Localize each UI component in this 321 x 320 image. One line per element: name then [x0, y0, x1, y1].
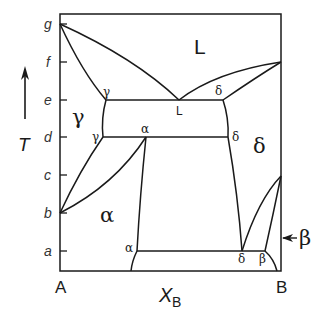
- temperature-ticks: [60, 24, 67, 251]
- gamma-boundary: [102, 100, 106, 137]
- region-label-delta: δ: [253, 134, 266, 158]
- component-label-a: A: [55, 278, 67, 297]
- beta-solvus-lower: [265, 251, 277, 271]
- point-label-gamma-d: γ: [92, 130, 99, 144]
- tick-label-b: b: [44, 205, 52, 221]
- tick-label-a: a: [44, 243, 52, 259]
- beta-pointer-arrow-icon: [282, 234, 297, 242]
- gamma-alpha-right: [60, 137, 146, 213]
- region-label-alpha: α: [100, 203, 114, 227]
- composition-axis-label: X: [158, 284, 173, 306]
- tick-label-e: e: [44, 92, 52, 108]
- tick-label-c: c: [44, 167, 51, 183]
- composition-axis-subscript: B: [172, 294, 181, 310]
- alpha-solvus: [137, 137, 146, 251]
- tick-label-d: d: [44, 129, 53, 145]
- liquidus-delta: [179, 62, 281, 100]
- liquidus-gamma-right: [60, 24, 179, 100]
- region-label-liquid: L: [194, 35, 206, 58]
- point-label-delta-a: δ: [238, 252, 245, 266]
- point-label-alpha-a: α: [125, 241, 133, 255]
- delta-boundary-upper: [223, 100, 228, 137]
- component-label-b: B: [276, 278, 287, 297]
- point-label-alpha-d: α: [141, 122, 149, 136]
- temperature-axis-label: T: [18, 134, 31, 155]
- beta-pointer-label: β: [299, 226, 311, 250]
- beta-boundary-left: [242, 176, 281, 251]
- point-label-gamma-e: γ: [103, 85, 110, 99]
- point-label-delta-d: δ: [232, 130, 239, 144]
- region-label-gamma: γ: [72, 105, 85, 129]
- tick-label-f: f: [46, 54, 52, 70]
- beta-boundary-right: [265, 176, 281, 251]
- tick-label-g: g: [44, 16, 52, 32]
- phase-diagram: g f e d c b a T L γ δ α γ L δ γ α δ α δ …: [0, 0, 321, 320]
- temperature-arrow-icon: [21, 66, 29, 119]
- delta-solvus: [228, 137, 242, 251]
- point-label-liquid-e: L: [176, 104, 183, 118]
- point-label-delta-e: δ: [215, 84, 222, 98]
- point-label-beta-a: β: [259, 252, 266, 266]
